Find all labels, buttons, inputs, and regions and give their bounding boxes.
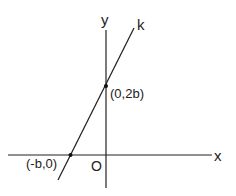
point-y-intercept-label: (0,2b): [110, 86, 144, 101]
line-k-label: k: [137, 16, 145, 33]
origin-label: O: [91, 158, 102, 174]
point-x-intercept-label: (-b,0): [26, 156, 57, 171]
y-axis-label: y: [101, 11, 109, 28]
x-axis-label: x: [214, 147, 222, 164]
point-y-intercept: [104, 84, 108, 88]
coordinate-diagram: y k (0,2b) (-b,0) O x: [0, 0, 236, 196]
point-x-intercept: [69, 153, 73, 157]
